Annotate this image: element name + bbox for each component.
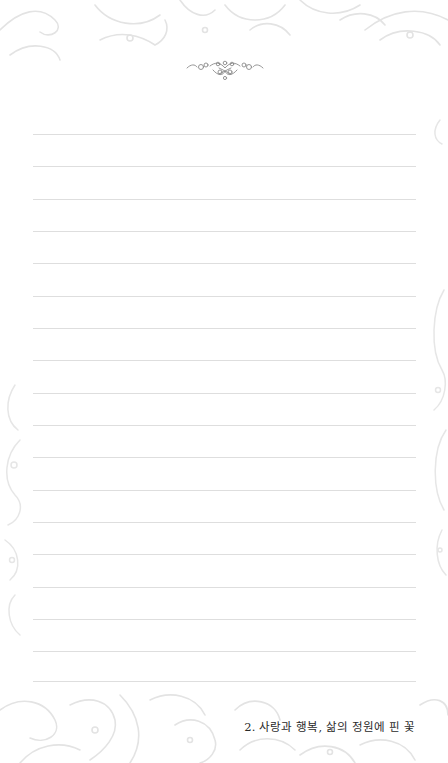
ruled-line [33,199,416,200]
ruled-line [33,328,416,329]
right-floral-border [428,110,448,670]
ruled-line [33,651,416,652]
ruled-line [33,263,416,264]
ruled-line [33,457,416,458]
ruled-line [33,231,416,232]
ruled-line [33,681,416,682]
ruled-line [33,393,416,394]
ruled-line [33,296,416,297]
ruled-lines [33,0,416,763]
chapter-title: 2. 사랑과 행복, 삶의 정원에 핀 꽃 [244,718,415,734]
ruled-line [33,587,416,588]
left-floral-border [0,380,30,640]
ruled-line [33,554,416,555]
ruled-line [33,134,416,135]
ruled-line [33,490,416,491]
ruled-line [33,425,416,426]
notebook-page: 2. 사랑과 행복, 삶의 정원에 핀 꽃 [0,0,448,763]
ruled-line [33,166,416,167]
ruled-line [33,360,416,361]
ruled-line [33,619,416,620]
ruled-line [33,522,416,523]
